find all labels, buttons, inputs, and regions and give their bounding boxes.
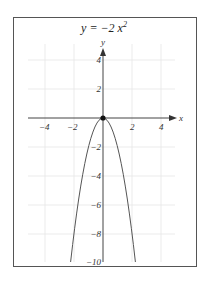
y-tick-label: 2: [97, 84, 102, 94]
title-exponent: 2: [123, 20, 127, 29]
y-tick-label: −6: [90, 200, 101, 210]
x-tick-label: −4: [39, 122, 50, 132]
vertex-point: [100, 115, 105, 120]
x-axis-arrow-icon: [169, 115, 177, 121]
y-tick-label: −4: [90, 171, 101, 181]
y-tick-label: −2: [90, 142, 101, 152]
chart-title: y = −2 x2: [80, 20, 127, 35]
grid: [28, 44, 175, 262]
x-tick-label: 2: [130, 122, 135, 132]
x-tick-label: −2: [67, 122, 78, 132]
chart-plot: x y −4 −2 2 4 4 2 −2 −4 −6 −8 −10 y = −2…: [0, 0, 207, 281]
x-axis-label: x: [178, 113, 183, 123]
y-tick-label: 4: [97, 55, 102, 65]
x-tick-label: 4: [159, 122, 164, 132]
y-tick-label: −10: [86, 257, 102, 267]
y-tick-label: −8: [90, 229, 101, 239]
y-axis-label: y: [100, 37, 105, 47]
title-main: y = −2 x: [80, 21, 124, 35]
